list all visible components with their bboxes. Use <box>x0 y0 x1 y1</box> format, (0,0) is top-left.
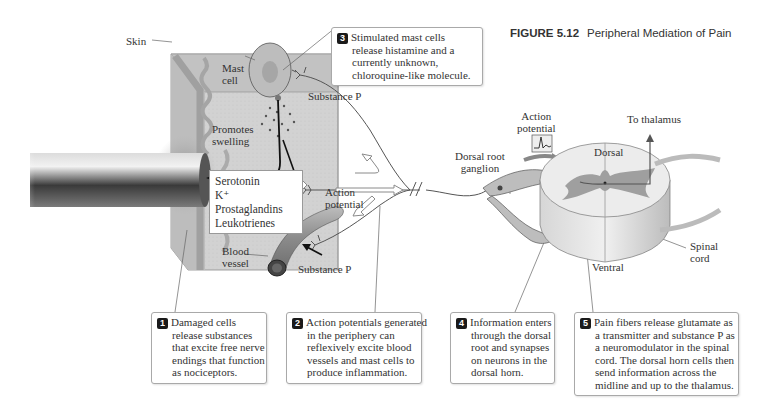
step-badge-5: 5 <box>580 318 591 329</box>
substance-serotonin: Serotonin <box>215 174 297 188</box>
substance-leukotrienes: Leukotrienes <box>215 216 297 230</box>
label-substance-p-bottom: Substance P <box>298 263 351 275</box>
released-substances-box: Serotonin K⁺ Prostaglandins Leukotrienes <box>209 170 303 234</box>
action-potential-trace <box>524 135 558 161</box>
label-spinal-cord: Spinal cord <box>690 240 718 264</box>
label-dorsal-root-ganglion: Dorsal root ganglion <box>455 150 505 174</box>
label-mast-cell: Mast cell <box>222 62 244 86</box>
callout-5: 5Pain fibers release glutamate as a tran… <box>574 312 739 396</box>
label-skin: Skin <box>126 35 146 47</box>
callout-4: 4Information enters through the dorsal r… <box>450 312 555 384</box>
label-substance-p-top: Substance P <box>308 90 361 102</box>
step-badge-4: 4 <box>456 318 467 329</box>
label-dorsal: Dorsal <box>594 146 623 158</box>
figure-title: FIGURE 5.12Peripheral Mediation of Pain <box>510 27 732 39</box>
callout-2: 2Action potentials generated in the peri… <box>286 312 422 384</box>
injury-probe <box>0 135 217 215</box>
label-blood-vessel: Blood vessel <box>222 245 249 269</box>
callout-3: 3Stimulated mast cells release histamine… <box>331 27 483 86</box>
figure-number: FIGURE 5.12 <box>510 27 579 39</box>
step-badge-1: 1 <box>157 318 168 329</box>
label-action-potential-periphery: Action potential <box>325 186 364 210</box>
label-action-potential-trace: Action potential <box>517 110 556 134</box>
label-to-thalamus: To thalamus <box>627 113 681 125</box>
step-badge-2: 2 <box>292 318 303 329</box>
label-ventral: Ventral <box>592 261 624 273</box>
label-promotes-swelling: Promotes swelling <box>212 123 254 147</box>
figure-caption: Peripheral Mediation of Pain <box>587 27 731 39</box>
substance-prostaglandins: Prostaglandins <box>215 202 297 216</box>
step-badge-3: 3 <box>337 33 348 44</box>
callout-1: 1Damaged cells release substances that e… <box>151 312 267 384</box>
substance-potassium: K⁺ <box>215 188 297 202</box>
